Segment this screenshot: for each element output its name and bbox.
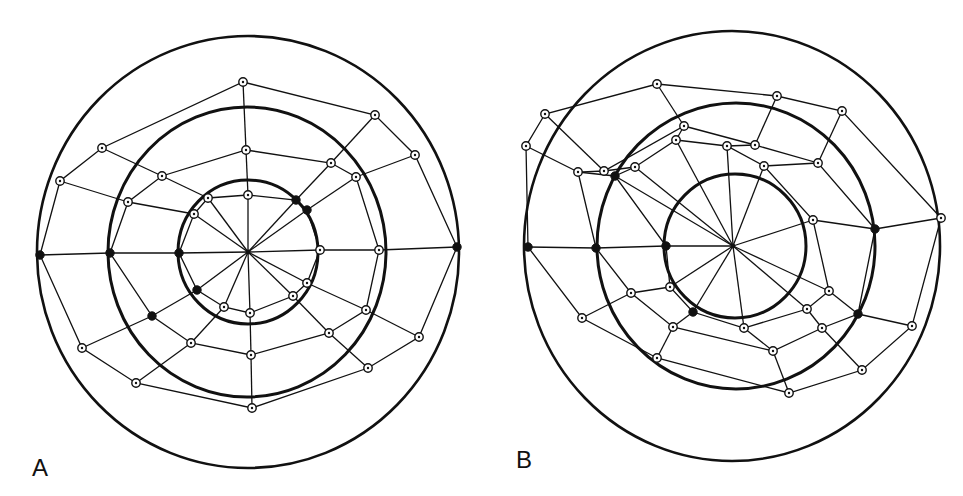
radial-link: [82, 316, 152, 348]
node-filled-marker: [689, 308, 697, 316]
spoke-line: [635, 167, 733, 246]
node-center-dot: [812, 219, 814, 221]
spoke-line: [733, 166, 764, 246]
node-center-dot: [817, 162, 819, 164]
node-center-dot: [59, 180, 61, 182]
node-center-dot: [251, 407, 253, 409]
node-center-dot: [634, 166, 636, 168]
node-center-dot: [525, 145, 527, 147]
panel-a-label: A: [32, 456, 48, 480]
radial-link: [596, 246, 666, 248]
node-center-dot: [190, 342, 192, 344]
spoke-line: [194, 214, 248, 252]
node-center-dot: [861, 369, 863, 371]
node-filled-marker: [854, 310, 862, 318]
radial-link: [528, 247, 596, 248]
radial-link: [243, 82, 246, 150]
node-center-dot: [250, 354, 252, 356]
radial-link: [875, 218, 941, 229]
spoke-line: [733, 246, 829, 291]
node-center-dot: [911, 325, 913, 327]
radial-link: [251, 355, 252, 408]
node-center-dot: [127, 201, 129, 203]
node-filled-marker: [175, 249, 183, 257]
node-center-dot: [242, 81, 244, 83]
panel-b-polar-grid: [522, 31, 945, 461]
node-center-dot: [788, 392, 790, 394]
web-outer: [526, 84, 941, 393]
radial-link: [578, 172, 615, 176]
node-center-dot: [581, 317, 583, 319]
node-filled-marker: [592, 244, 600, 252]
radial-link: [356, 155, 415, 177]
spoke-line: [733, 220, 813, 246]
radial-link: [829, 291, 858, 314]
panel-b-label: B: [516, 448, 532, 472]
node-center-dot: [193, 213, 195, 215]
radial-link: [307, 283, 366, 310]
node-center-dot: [223, 306, 225, 308]
radial-link: [858, 314, 912, 326]
node-center-dot: [319, 249, 321, 251]
node-center-dot: [418, 336, 420, 338]
node-center-dot: [669, 286, 671, 288]
node-center-dot: [367, 367, 369, 369]
node-center-dot: [772, 350, 774, 352]
node-center-dot: [806, 308, 808, 310]
node-center-dot: [414, 154, 416, 156]
node-center-dot: [330, 162, 332, 164]
spoke-line: [615, 176, 733, 246]
radial-link: [545, 114, 604, 171]
node-center-dot: [672, 326, 674, 328]
radial-link: [822, 328, 862, 370]
node-filled-marker: [303, 206, 311, 214]
node-center-dot: [101, 147, 103, 149]
node-center-dot: [135, 382, 137, 384]
node-center-dot: [81, 347, 83, 349]
node-center-dot: [940, 217, 942, 219]
radial-link: [818, 111, 842, 163]
hub-point: [246, 250, 250, 254]
node-center-dot: [378, 249, 380, 251]
node-center-dot: [726, 145, 728, 147]
radial-link: [250, 313, 251, 355]
radial-link: [296, 163, 331, 200]
radial-link: [813, 220, 875, 229]
node-filled-marker: [871, 225, 879, 233]
radial-link: [379, 247, 457, 250]
radial-link: [152, 290, 197, 316]
spoke-line: [733, 246, 807, 309]
radial-link: [657, 327, 673, 358]
node-center-dot: [247, 194, 249, 196]
node-center-dot: [656, 357, 658, 359]
node-center-dot: [821, 327, 823, 329]
node-filled-marker: [36, 251, 44, 259]
spoke-line: [248, 252, 293, 296]
node-center-dot: [355, 176, 357, 178]
node-filled-marker: [524, 243, 532, 251]
panel-a-polar-grid: [36, 36, 461, 468]
node-center-dot: [841, 110, 843, 112]
radial-link: [764, 163, 818, 166]
node-filled-marker: [611, 172, 619, 180]
radial-link: [366, 310, 419, 337]
node-center-dot: [763, 165, 765, 167]
radial-link: [162, 176, 208, 198]
node-center-dot: [161, 175, 163, 177]
node-center-dot: [328, 332, 330, 334]
spoke-line: [670, 246, 733, 287]
node-center-dot: [207, 197, 209, 199]
node-center-dot: [577, 171, 579, 173]
spoke-line: [733, 246, 744, 328]
node-center-dot: [675, 139, 677, 141]
radial-link: [40, 253, 110, 255]
radial-link: [631, 287, 670, 293]
node-filled-marker: [662, 242, 670, 250]
radial-link: [526, 146, 578, 172]
node-center-dot: [245, 149, 247, 151]
node-center-dot: [374, 114, 376, 116]
node-center-dot: [292, 295, 294, 297]
spoke-line: [208, 198, 248, 252]
radial-link: [60, 181, 128, 202]
radial-link: [293, 296, 329, 333]
